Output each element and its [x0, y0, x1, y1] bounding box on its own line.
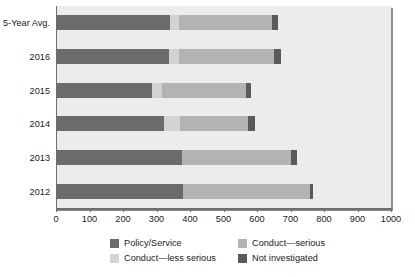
- x-axis-tick-label: 800: [316, 214, 331, 225]
- bar-segment: [56, 150, 182, 165]
- bar-segment: [179, 15, 272, 30]
- legend-label: Policy/Service: [124, 238, 182, 249]
- y-axis-label: 2015: [0, 86, 50, 96]
- x-axis-tick: [257, 208, 258, 212]
- x-axis-tick-label: 0: [53, 214, 58, 225]
- chart-legend: Policy/ServiceConduct—seriousConduct—les…: [110, 238, 395, 268]
- bar-segment: [248, 116, 255, 131]
- bar-row: [56, 83, 251, 98]
- y-axis-labels: 5-Year Avg.20162015201420132012: [0, 6, 52, 208]
- legend-item[interactable]: Policy/Service: [110, 238, 238, 253]
- bars-layer: [56, 6, 391, 208]
- legend-swatch-icon: [110, 239, 119, 248]
- legend-label: Conduct—serious: [252, 238, 325, 249]
- x-axis-tick-label: 900: [350, 214, 365, 225]
- bar-row: [56, 184, 313, 199]
- x-axis-tick: [90, 208, 91, 212]
- y-axis-label: 2016: [0, 52, 50, 62]
- x-axis-tick: [157, 208, 158, 212]
- x-axis-tick-label: 600: [249, 214, 264, 225]
- bar-segment: [56, 83, 152, 98]
- bar-segment: [164, 116, 180, 131]
- bar-segment: [56, 184, 183, 199]
- bar-segment: [162, 83, 245, 98]
- bar-segment: [183, 184, 310, 199]
- x-axis-tick-label: 500: [216, 214, 231, 225]
- legend-label: Not investigated: [252, 253, 318, 264]
- x-axis-tick: [291, 208, 292, 212]
- bar-row: [56, 116, 255, 131]
- bar-row: [56, 150, 297, 165]
- x-axis-tick: [224, 208, 225, 212]
- bar-row: [56, 49, 281, 64]
- x-axis-tick: [190, 208, 191, 212]
- bar-segment: [291, 150, 297, 165]
- legend-swatch-icon: [238, 254, 247, 263]
- bar-segment: [274, 49, 281, 64]
- bar-segment: [182, 150, 291, 165]
- legend-item[interactable]: Not investigated: [238, 253, 388, 268]
- bar-segment: [272, 15, 278, 30]
- bar-segment: [179, 49, 274, 64]
- y-axis-label: 2014: [0, 119, 50, 129]
- y-axis-label: 2013: [0, 153, 50, 163]
- bar-segment: [56, 116, 164, 131]
- y-axis-label: 5-Year Avg.: [0, 18, 50, 28]
- plot-right-edge: [391, 8, 393, 211]
- stacked-bar-chart: 5-Year Avg.20162015201420132012 01002003…: [0, 0, 415, 277]
- x-axis-tick-label: 200: [115, 214, 130, 225]
- x-axis-tick: [123, 208, 124, 212]
- x-axis-tick-label: 1000: [381, 214, 401, 225]
- x-axis-tick-label: 100: [82, 214, 97, 225]
- bar-segment: [152, 83, 162, 98]
- bar-segment: [170, 15, 179, 30]
- legend-item[interactable]: Conduct—serious: [238, 238, 388, 253]
- bar-segment: [246, 83, 251, 98]
- bar-row: [56, 15, 278, 30]
- y-axis-label: 2012: [0, 187, 50, 197]
- legend-item[interactable]: Conduct—less serious: [110, 253, 238, 268]
- bar-segment: [169, 49, 179, 64]
- x-axis-tick: [391, 208, 392, 212]
- x-axis-tick: [358, 208, 359, 212]
- legend-swatch-icon: [110, 254, 119, 263]
- x-axis-tick-label: 300: [149, 214, 164, 225]
- x-axis-tick-label: 700: [283, 214, 298, 225]
- legend-label: Conduct—less serious: [124, 253, 216, 264]
- legend-swatch-icon: [238, 239, 247, 248]
- bar-segment: [56, 15, 170, 30]
- x-axis-tick-label: 400: [182, 214, 197, 225]
- bar-segment: [310, 184, 313, 199]
- x-axis-tick: [324, 208, 325, 212]
- x-axis-tick: [56, 208, 57, 212]
- bar-segment: [180, 116, 248, 131]
- bar-segment: [56, 49, 169, 64]
